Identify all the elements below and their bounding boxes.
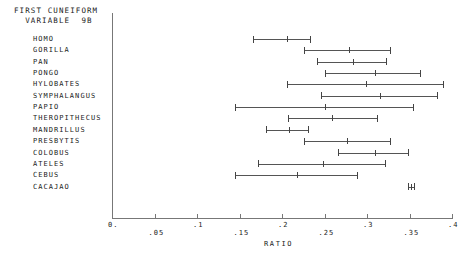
interval-bar: [317, 62, 386, 63]
category-label: HOMO: [33, 35, 54, 43]
interval-center-tick: [375, 70, 376, 76]
interval-bar: [338, 153, 408, 154]
category-label: THEROPITHECUS: [33, 114, 101, 122]
category-label: CACAJAO: [33, 183, 70, 191]
category-label: COLOBUS: [33, 149, 70, 157]
interval-end-cap: [321, 92, 322, 99]
x-axis-tick-label: .2: [278, 221, 288, 229]
interval-center-tick: [366, 81, 367, 87]
interval-end-cap: [408, 183, 409, 190]
interval-end-cap: [235, 104, 236, 111]
x-axis-tick-label: .35: [404, 229, 420, 237]
interval-end-cap: [317, 58, 318, 65]
interval-center-tick: [375, 150, 376, 156]
interval-end-cap: [304, 138, 305, 145]
x-axis-title: RATIO: [264, 240, 293, 248]
chart-canvas: FIRST CUNEIFORM VARIABLE 9B HOMOGORILLAP…: [0, 0, 469, 259]
interval-bar: [235, 175, 357, 176]
x-axis-tick-label: .1: [193, 221, 203, 229]
interval-end-cap: [357, 172, 358, 179]
interval-end-cap: [390, 138, 391, 145]
x-axis-tick-label: .05: [149, 229, 165, 237]
interval-end-cap: [338, 149, 339, 156]
category-label: PAPIO: [33, 103, 59, 111]
interval-center-tick: [380, 93, 381, 99]
x-axis-tick: [367, 214, 368, 219]
category-label: PRESBYTIS: [33, 137, 80, 145]
category-label: PONGO: [33, 69, 59, 77]
interval-center-tick: [332, 115, 333, 121]
interval-center-tick: [289, 127, 290, 133]
zero-reference-line: [112, 13, 113, 218]
interval-bar: [266, 130, 309, 131]
x-axis-tick-label: .4: [448, 221, 458, 229]
interval-end-cap: [408, 149, 409, 156]
x-axis-tick: [452, 214, 453, 219]
x-axis-tick-label: .15: [234, 229, 250, 237]
interval-bar: [287, 84, 443, 85]
interval-end-cap: [390, 47, 391, 54]
x-axis-tick: [155, 214, 156, 219]
interval-bar: [325, 73, 419, 74]
category-label: CEBUS: [33, 171, 59, 179]
x-axis-tick: [410, 214, 411, 219]
x-axis-tick-label: .25: [319, 229, 335, 237]
interval-end-cap: [310, 36, 311, 43]
interval-center-tick: [323, 161, 324, 167]
interval-bar: [304, 50, 390, 51]
interval-bar: [258, 164, 385, 165]
interval-bar: [235, 107, 413, 108]
interval-center-tick: [287, 36, 288, 42]
interval-end-cap: [253, 36, 254, 43]
interval-end-cap: [443, 81, 444, 88]
x-axis-tick: [325, 214, 326, 219]
interval-end-cap: [287, 81, 288, 88]
x-axis-tick: [112, 214, 113, 219]
interval-end-cap: [235, 172, 236, 179]
interval-center-tick: [353, 59, 354, 65]
interval-center-tick: [325, 104, 326, 110]
category-label: MANDRILLUS: [33, 126, 86, 134]
interval-end-cap: [288, 115, 289, 122]
interval-bar: [253, 39, 310, 40]
x-axis-tick: [282, 214, 283, 219]
x-axis-tick-label: 0.: [108, 221, 118, 229]
x-axis-tick-label: .3: [363, 221, 373, 229]
interval-center-tick: [297, 172, 298, 178]
interval-end-cap: [258, 160, 259, 167]
interval-end-cap: [437, 92, 438, 99]
interval-end-cap: [266, 126, 267, 133]
interval-end-cap: [304, 47, 305, 54]
interval-center-tick: [349, 47, 350, 53]
interval-end-cap: [413, 104, 414, 111]
interval-end-cap: [386, 58, 387, 65]
interval-end-cap: [377, 115, 378, 122]
category-label: GORILLA: [33, 46, 70, 54]
interval-center-tick: [347, 138, 348, 144]
category-label: SYMPHALANGUS: [33, 92, 96, 100]
interval-center-tick: [411, 184, 412, 190]
category-label: ATELES: [33, 160, 65, 168]
x-axis-tick: [197, 214, 198, 219]
interval-end-cap: [308, 126, 309, 133]
interval-end-cap: [420, 70, 421, 77]
category-label: HYLOBATES: [33, 80, 80, 88]
chart-title: FIRST CUNEIFORM VARIABLE 9B: [14, 6, 98, 25]
interval-end-cap: [414, 183, 415, 190]
category-label: PAN: [33, 58, 49, 66]
x-axis-tick: [240, 214, 241, 219]
interval-end-cap: [325, 70, 326, 77]
interval-end-cap: [385, 160, 386, 167]
